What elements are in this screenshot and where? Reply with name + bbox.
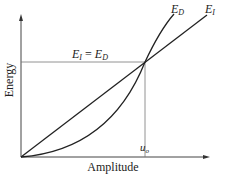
curve-e-i	[21, 15, 207, 157]
x-axis-arrow-icon	[203, 155, 210, 159]
x-axis-label: Amplitude	[87, 160, 138, 174]
y-axis-label: Energy	[2, 63, 16, 97]
u0-marker-label: uo	[140, 141, 150, 155]
curve-label-e-i: EI	[204, 2, 215, 17]
energy-amplitude-diagram: ED EI EI = ED uo Amplitude Energy	[0, 0, 228, 175]
y-axis-arrow-icon	[19, 14, 23, 21]
equality-label: EI = ED	[71, 47, 108, 62]
curve-e-d	[21, 14, 174, 157]
curve-label-e-d: ED	[170, 2, 184, 17]
